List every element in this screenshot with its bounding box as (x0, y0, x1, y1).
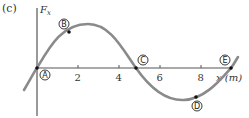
point-e (229, 66, 233, 70)
point-c (134, 66, 138, 70)
x-tick-label: 6 (157, 72, 163, 83)
svg-text:C: C (140, 56, 146, 65)
svg-text:D: D (194, 102, 200, 111)
point-b (67, 30, 71, 34)
x-tick-label: 4 (116, 72, 122, 83)
point-a (35, 66, 39, 70)
force-curve (24, 24, 238, 100)
point-label-e: E (220, 55, 230, 65)
svg-text:E: E (222, 56, 227, 65)
point-label-d: D (192, 101, 202, 111)
y-axis-label: Fx (39, 4, 51, 17)
point-d (194, 95, 198, 99)
point-label-c: C (138, 55, 148, 65)
point-label-b: B (59, 19, 69, 29)
x-tick-label: 8 (198, 72, 204, 83)
point-label-a: A (40, 70, 50, 80)
force-vs-position-chart: (c) Fx 2 4 6 8 x (m) A B C D (0, 0, 249, 118)
x-tick-label: 2 (75, 72, 81, 83)
svg-text:A: A (42, 71, 48, 80)
panel-label: (c) (2, 2, 17, 15)
svg-text:B: B (61, 20, 67, 29)
